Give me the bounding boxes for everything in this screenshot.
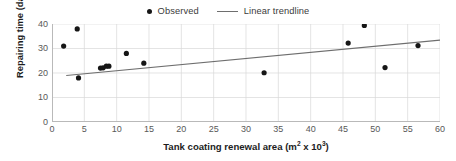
x-tick-label: 25: [201, 125, 227, 134]
data-point: [141, 61, 146, 66]
x-tick-label: 0: [39, 125, 65, 134]
x-tick-label: 35: [265, 125, 291, 134]
y-tick-label: 20: [26, 69, 48, 78]
x-tick-label: 40: [298, 125, 324, 134]
legend-label-linear-trendline: Linear trendline: [244, 6, 310, 16]
x-axis-tick-labels: 051015202530354045505560: [52, 125, 440, 137]
gridlines: [52, 24, 440, 122]
chart-figure: Observed Linear trendline Repairing time…: [0, 0, 456, 161]
legend-label-observed: Observed: [158, 6, 199, 16]
data-point: [76, 75, 81, 80]
data-point: [106, 64, 111, 69]
data-point: [415, 43, 420, 48]
x-tick-label: 30: [233, 125, 259, 134]
data-point: [346, 41, 351, 46]
x-tick-label: 20: [168, 125, 194, 134]
plot-svg: [52, 24, 440, 122]
data-point: [124, 51, 129, 56]
y-tick-label: 30: [26, 44, 48, 53]
observed-marker-icon: [147, 9, 152, 14]
data-point: [262, 70, 267, 75]
x-tick-label: 45: [330, 125, 356, 134]
data-point: [362, 24, 367, 28]
y-tick-label: 40: [26, 20, 48, 29]
trendline: [66, 40, 440, 75]
data-point: [75, 26, 80, 31]
y-tick-label: 10: [26, 93, 48, 102]
legend-item-observed: Observed: [147, 6, 199, 16]
y-axis-tick-labels: 010203040: [24, 24, 48, 122]
x-tick-label: 15: [136, 125, 162, 134]
x-tick-label: 50: [362, 125, 388, 134]
observed-data-points: [61, 24, 421, 80]
x-tick-label: 5: [71, 125, 97, 134]
data-point: [61, 43, 66, 48]
legend-item-linear-trendline: Linear trendline: [217, 6, 310, 16]
chart-legend: Observed Linear trendline: [0, 2, 456, 20]
data-point: [382, 65, 387, 70]
trendline-marker-icon: [217, 11, 238, 12]
x-tick-label: 10: [104, 125, 130, 134]
x-tick-label: 55: [395, 125, 421, 134]
x-tick-label: 60: [427, 125, 453, 134]
plot-area: [52, 24, 440, 122]
trendline-path: [66, 40, 440, 75]
x-axis-title: Tank coating renewal area (m2 x 103): [52, 141, 440, 152]
